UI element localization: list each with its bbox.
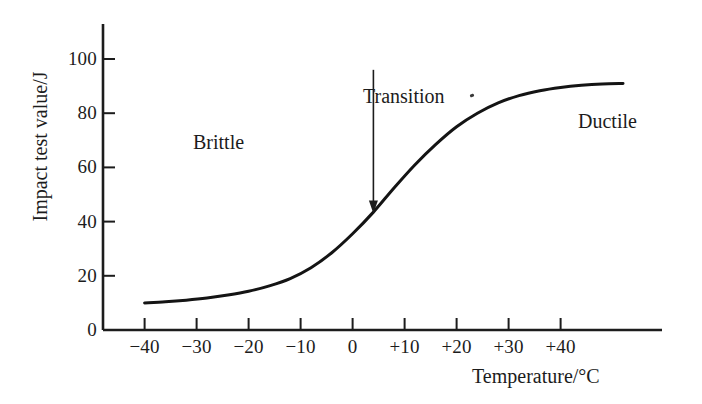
x-tick-label: +40 — [545, 336, 575, 358]
y-tick-label: 40 — [78, 211, 97, 233]
x-tick-label: 0 — [348, 336, 358, 358]
x-tick-label: −30 — [181, 336, 211, 358]
y-tick-label: 100 — [68, 48, 97, 70]
x-tick-label: −20 — [233, 336, 263, 358]
y-tick-label: 0 — [87, 319, 97, 341]
y-tick-label: 80 — [78, 102, 97, 124]
y-tick-label: 20 — [78, 265, 97, 287]
x-tick-label: −40 — [129, 336, 159, 358]
x-tick-label: +20 — [441, 336, 471, 358]
x-tick-label: +10 — [389, 336, 419, 358]
ductile-region-label: Ductile — [578, 110, 637, 133]
brittle-region-label: Brittle — [193, 131, 244, 154]
y-tick-label: 60 — [78, 156, 97, 178]
x-axis-title: Temperature/°C — [472, 365, 600, 388]
impact-value-curve — [145, 83, 623, 303]
y-axis-ticks — [103, 59, 115, 330]
x-tick-label: −10 — [285, 336, 315, 358]
x-axis-ticks — [145, 318, 561, 330]
impact-transition-chart: Impact test value/J Temperature/°C 02040… — [0, 0, 702, 404]
axis-lines — [103, 24, 662, 330]
y-axis-title: Impact test value/J — [29, 47, 52, 247]
transition-annotation-label: Transition — [363, 85, 445, 108]
x-tick-label: +30 — [493, 336, 523, 358]
